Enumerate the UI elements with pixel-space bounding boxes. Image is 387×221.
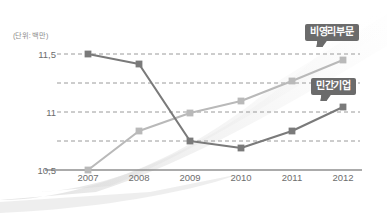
- y-tick-10-5: 10,5: [38, 165, 57, 176]
- gridlines: [57, 54, 360, 141]
- x-tick-2010: 2010: [230, 172, 251, 183]
- series-markers-nonprofit: [85, 57, 347, 174]
- data-point-private-2007: [85, 51, 92, 58]
- data-point-private-2008: [136, 61, 143, 68]
- data-point-private-2009: [187, 138, 194, 145]
- x-tick-2008: 2008: [128, 172, 149, 183]
- legend-callout-private: 민간기업: [311, 78, 356, 95]
- legend-callout-nonprofit: 비영리부문: [305, 24, 359, 41]
- y-axis: 11,5 11 10,5: [0, 0, 56, 221]
- y-tick-11-5: 11,5: [38, 49, 56, 60]
- series-markers-private: [85, 51, 347, 152]
- data-point-private-2011: [289, 128, 296, 135]
- data-point-nonprofit-2012: [340, 57, 347, 64]
- data-point-nonprofit-2008: [136, 128, 143, 135]
- data-point-private-2012: [340, 104, 347, 111]
- y-tick-11-0: 11: [46, 107, 56, 118]
- data-point-nonprofit-2010: [238, 98, 245, 105]
- data-point-nonprofit-2009: [187, 110, 194, 117]
- data-point-private-2010: [238, 145, 245, 152]
- series-line-private: [88, 54, 343, 148]
- chart-container: (단위: 백만) 11,5 11 10,5 2007 2008 2009 201…: [0, 0, 387, 221]
- x-tick-2009: 2009: [179, 172, 200, 183]
- data-point-nonprofit-2011: [289, 78, 296, 85]
- series-line-nonprofit: [88, 60, 343, 170]
- x-tick-2012: 2012: [332, 172, 353, 183]
- x-tick-2007: 2007: [77, 172, 98, 183]
- x-tick-2011: 2011: [282, 172, 302, 183]
